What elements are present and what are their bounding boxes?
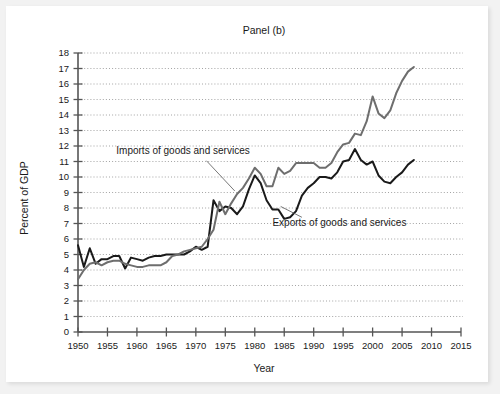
imports-annotation-label: Imports of goods and services [116,145,249,156]
y-tick-label-2: 2 [64,295,69,306]
y-axis: 0123456789101112131415161718 [58,47,82,337]
y-tick-label-3: 3 [64,280,69,291]
y-tick-label-13: 13 [58,125,69,136]
y-tick-label-15: 15 [58,94,69,105]
y-tick-label-16: 16 [58,78,69,89]
x-tick-label-1950: 1950 [67,340,88,351]
y-tick-label-12: 12 [58,140,69,151]
x-tick-label-1955: 1955 [97,340,118,351]
x-axis-title: Year [253,362,275,374]
y-tick-label-6: 6 [64,233,69,244]
y-tick-label-10: 10 [58,171,69,182]
x-tick-label-2005: 2005 [392,340,413,351]
figure-canvas: Panel (b) Percent of GDP Year 0123456789… [6,6,488,382]
y-tick-label-9: 9 [64,187,69,198]
series-line-imports [78,67,414,279]
y-tick-label-11: 11 [59,156,69,167]
y-tick-label-8: 8 [64,202,69,213]
y-axis-title: Percent of GDP [18,161,30,235]
x-tick-label-2010: 2010 [421,340,442,351]
figure-root: Panel (b) Percent of GDP Year 0123456789… [0,0,500,394]
x-tick-label-2015: 2015 [450,340,471,351]
x-tick-label-1975: 1975 [215,340,236,351]
y-tick-label-4: 4 [64,264,69,275]
y-tick-label-5: 5 [64,249,69,260]
x-axis: 1950195519601965197019751980198519901995… [67,328,471,352]
x-tick-label-1980: 1980 [244,340,265,351]
imports-annotation-leader-line [206,161,234,191]
x-tick-label-1970: 1970 [185,340,206,351]
chart-svg: Panel (b) Percent of GDP Year 0123456789… [6,6,488,382]
x-tick-label-1985: 1985 [274,340,295,351]
y-tick-label-17: 17 [58,63,69,74]
y-tick-label-14: 14 [58,109,69,120]
y-tick-label-18: 18 [58,47,69,58]
gridlines [78,53,463,317]
series-group [78,67,414,279]
y-tick-label-0: 0 [64,326,69,337]
y-tick-label-1: 1 [64,311,69,322]
exports-annotation-label: Exports of goods and services [272,217,406,228]
x-tick-label-2000: 2000 [362,340,383,351]
y-tick-label-7: 7 [64,218,69,229]
x-tick-label-1990: 1990 [303,340,324,351]
chart-title: Panel (b) [243,24,286,36]
x-tick-label-1965: 1965 [156,340,177,351]
series-line-exports [78,149,414,268]
x-tick-label-1960: 1960 [126,340,147,351]
x-tick-label-1995: 1995 [333,340,354,351]
